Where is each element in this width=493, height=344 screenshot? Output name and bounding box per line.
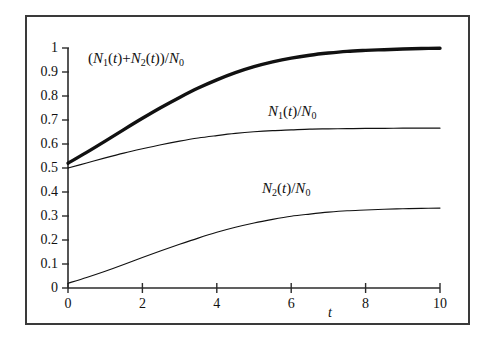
y-tick-label: 0.6 — [24, 137, 58, 151]
y-tick-label: 0.4 — [24, 185, 58, 199]
y-tick-label: 0.3 — [24, 209, 58, 223]
data-curves — [68, 48, 440, 283]
x-tick-label: 4 — [197, 297, 237, 311]
y-tick-label: 0.1 — [24, 257, 58, 271]
x-tick-label: 10 — [420, 297, 460, 311]
sum-curve-label: (N1(t)+N2(t))/N0 — [88, 50, 184, 71]
figure-container: 00.10.20.30.40.50.60.70.80.91 0246810 (N… — [0, 0, 493, 344]
y-tick-label: 0.8 — [24, 89, 58, 103]
y-tick-label: 0.7 — [24, 113, 58, 127]
curve-n2-t-n0 — [68, 208, 440, 283]
y-tick-label: 0.9 — [24, 65, 58, 79]
n1-curve-label: N1(t)/N0 — [268, 103, 316, 124]
curve-n1-t-n0 — [68, 128, 440, 168]
x-tick-label: 0 — [48, 297, 88, 311]
chart-plot-area — [0, 0, 493, 344]
x-axis-title: t — [328, 305, 332, 321]
y-tick-label: 0.2 — [24, 233, 58, 247]
x-tick-label: 8 — [346, 297, 386, 311]
axes-group — [68, 48, 440, 288]
y-tick-label: 0 — [24, 281, 58, 295]
x-tick-label: 6 — [271, 297, 311, 311]
n2-curve-label: N2(t)/N0 — [262, 180, 310, 201]
x-tick-label: 2 — [122, 297, 162, 311]
y-tick-label: 1 — [24, 41, 58, 55]
y-tick-label: 0.5 — [24, 161, 58, 175]
